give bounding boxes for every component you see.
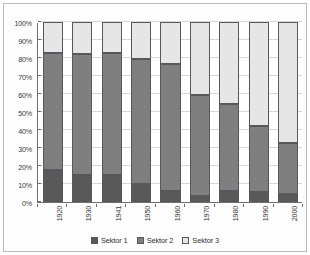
legend-label: Sektor 1: [101, 236, 128, 245]
bar-group: [67, 23, 96, 202]
y-axis-tick-label: 0%: [4, 199, 32, 208]
x-axis-tick-label: 1950: [143, 206, 152, 221]
chart-legend: Sektor 1Sektor 2Sektor 3: [4, 236, 306, 245]
y-axis-tick-label: 100%: [4, 19, 32, 28]
bar-group: [274, 23, 303, 202]
legend-item-sektor-2[interactable]: Sektor 2: [137, 236, 174, 245]
stacked-bar[interactable]: [278, 22, 298, 202]
y-axis-tick-label: 80%: [4, 55, 32, 64]
bar-group: [97, 23, 126, 202]
plot-area: [37, 23, 302, 203]
stacked-bar[interactable]: [43, 22, 63, 202]
x-axis-tick-mark: [66, 204, 67, 207]
bar-group: [185, 23, 214, 202]
stacked-bar[interactable]: [219, 22, 239, 202]
y-axis-tick-label: 30%: [4, 145, 32, 154]
y-axis-tick-label: 40%: [4, 127, 32, 136]
y-axis-tick-label: 60%: [4, 91, 32, 100]
y-axis-tick-label: 20%: [4, 163, 32, 172]
x-axis-tick-label: 1941: [114, 206, 123, 221]
bar-segment-sektor-1[interactable]: [102, 175, 122, 202]
bar-segment-sektor-3[interactable]: [249, 22, 269, 126]
x-axis-tick-mark: [37, 204, 38, 207]
y-axis: 0%10%20%30%40%50%60%70%80%90%100%: [4, 23, 34, 203]
bar-segment-sektor-2[interactable]: [72, 54, 92, 175]
bar-group: [156, 23, 185, 202]
x-axis-tick-mark: [184, 204, 185, 207]
bar-segment-sektor-2[interactable]: [278, 143, 298, 194]
x-axis-tick-label: 1990: [261, 206, 270, 221]
bar-segment-sektor-3[interactable]: [131, 22, 151, 59]
y-axis-tick-label: 50%: [4, 109, 32, 118]
chart-figure: 0%10%20%30%40%50%60%70%80%90%100% 192019…: [3, 3, 307, 252]
legend-item-sektor-3[interactable]: Sektor 3: [182, 236, 219, 245]
bar-segment-sektor-2[interactable]: [131, 59, 151, 184]
x-axis: 192019301941195019601970198019902000: [37, 204, 302, 238]
x-axis-tick-mark: [214, 204, 215, 207]
bar-segment-sektor-2[interactable]: [102, 53, 122, 175]
x-axis-tick-mark: [243, 204, 244, 207]
bar-segment-sektor-3[interactable]: [72, 22, 92, 54]
bar-group: [215, 23, 244, 202]
legend-item-sektor-1[interactable]: Sektor 1: [91, 236, 128, 245]
bar-segment-sektor-3[interactable]: [43, 22, 63, 53]
bar-group: [244, 23, 273, 202]
stacked-bar[interactable]: [160, 22, 180, 202]
bar-segment-sektor-3[interactable]: [190, 22, 210, 95]
stacked-bar[interactable]: [131, 22, 151, 202]
bar-segment-sektor-1[interactable]: [190, 196, 210, 202]
x-axis-tick-label: 1980: [231, 206, 240, 221]
bar-segment-sektor-1[interactable]: [72, 175, 92, 202]
x-axis-tick-mark: [302, 204, 303, 207]
bar-segment-sektor-3[interactable]: [160, 22, 180, 64]
bar-segment-sektor-3[interactable]: [102, 22, 122, 53]
x-axis-tick-label: 1920: [55, 206, 64, 221]
y-axis-tick-label: 90%: [4, 37, 32, 46]
x-axis-tick-label: 1960: [173, 206, 182, 221]
x-axis-tick-mark: [273, 204, 274, 207]
legend-swatch-icon: [91, 237, 98, 244]
bar-group: [126, 23, 155, 202]
y-axis-tick-mark: [38, 21, 41, 22]
bar-segment-sektor-3[interactable]: [219, 22, 239, 104]
bar-segment-sektor-1[interactable]: [131, 184, 151, 202]
stacked-bar[interactable]: [102, 22, 122, 202]
x-axis-tick-label: 1930: [84, 206, 93, 221]
legend-swatch-icon: [137, 237, 144, 244]
stacked-bar[interactable]: [190, 22, 210, 202]
x-axis-tick-label: 2000: [290, 206, 299, 221]
bar-segment-sektor-2[interactable]: [249, 126, 269, 192]
legend-label: Sektor 3: [192, 236, 219, 245]
bar-segment-sektor-2[interactable]: [190, 95, 210, 196]
bar-segment-sektor-1[interactable]: [160, 191, 180, 202]
x-axis-tick-mark: [155, 204, 156, 207]
bar-segment-sektor-2[interactable]: [43, 53, 63, 170]
bar-segment-sektor-1[interactable]: [219, 191, 239, 202]
stacked-bar[interactable]: [72, 22, 92, 202]
bar-segment-sektor-1[interactable]: [278, 194, 298, 202]
bar-segment-sektor-1[interactable]: [249, 192, 269, 202]
stacked-bar[interactable]: [249, 22, 269, 202]
bar-segment-sektor-3[interactable]: [278, 22, 298, 143]
bar-segment-sektor-2[interactable]: [160, 64, 180, 191]
y-axis-tick-label: 70%: [4, 73, 32, 82]
bar-segment-sektor-1[interactable]: [43, 170, 63, 202]
x-axis-tick-label: 1970: [202, 206, 211, 221]
y-axis-tick-label: 10%: [4, 181, 32, 190]
x-axis-tick-mark: [96, 204, 97, 207]
bar-segment-sektor-2[interactable]: [219, 104, 239, 191]
legend-label: Sektor 2: [147, 236, 174, 245]
x-axis-tick-mark: [125, 204, 126, 207]
bar-group: [38, 23, 67, 202]
legend-swatch-icon: [182, 237, 189, 244]
